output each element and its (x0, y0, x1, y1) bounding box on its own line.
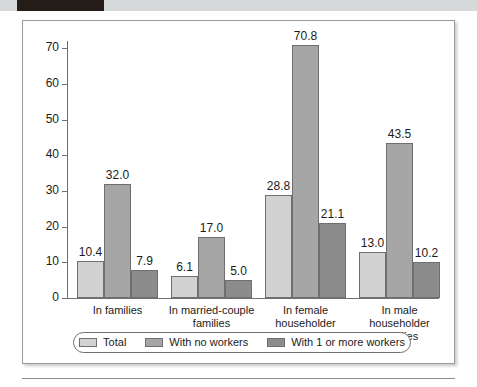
bar[interactable]: 6.1 (171, 276, 198, 298)
category-label-line: householder (340, 317, 460, 330)
bar[interactable]: 17.0 (198, 237, 225, 298)
y-tick-label: 10 (46, 254, 59, 269)
y-tick-mark (62, 84, 67, 85)
bar[interactable]: 7.9 (131, 270, 158, 298)
y-tick-label: 70 (46, 40, 59, 55)
y-tick-label: 0 (52, 290, 59, 305)
y-tick-label: 40 (46, 147, 59, 162)
legend-swatch (145, 338, 163, 347)
bar[interactable]: 10.2 (413, 262, 440, 298)
bar[interactable]: 28.8 (265, 195, 292, 298)
bar-value-label: 5.0 (230, 264, 247, 278)
bar[interactable]: 32.0 (104, 184, 131, 298)
bar-value-label: 10.4 (79, 245, 102, 259)
bar-value-label: 32.0 (106, 168, 129, 182)
legend-swatch (267, 338, 285, 347)
bar-value-label: 70.8 (294, 29, 317, 43)
y-axis-line (67, 41, 68, 298)
y-tick-mark (62, 120, 67, 121)
legend-item[interactable]: Total (79, 336, 126, 349)
bar-value-label: 28.8 (267, 179, 290, 193)
y-tick-label: 20 (46, 219, 59, 234)
chart-legend: TotalWith no workersWith 1 or more worke… (73, 332, 411, 353)
y-tick-mark (62, 191, 67, 192)
legend-item[interactable]: With 1 or more workers (267, 336, 405, 349)
footer-rule (22, 378, 455, 379)
legend-item[interactable]: With no workers (145, 336, 248, 349)
bar-value-label: 10.2 (415, 246, 438, 260)
y-tick-mark (62, 262, 67, 263)
y-tick-label: 30 (46, 183, 59, 198)
bar-value-label: 43.5 (388, 127, 411, 141)
y-tick-mark (62, 48, 67, 49)
chart-panel: 010203040506070 10.432.07.96.117.05.028.… (22, 20, 455, 364)
y-tick-mark (62, 298, 67, 299)
bar-value-label: 17.0 (200, 221, 223, 235)
bar[interactable]: 43.5 (386, 143, 413, 298)
legend-label: With 1 or more workers (291, 336, 405, 349)
bar-group: 6.117.05.0 (171, 41, 252, 298)
bar[interactable]: 10.4 (77, 261, 104, 298)
bar-value-label: 7.9 (136, 254, 153, 268)
category-label-line: In male (340, 304, 460, 317)
bar-value-label: 13.0 (361, 236, 384, 250)
page-header-strip (0, 0, 477, 11)
bar[interactable]: 70.8 (292, 45, 319, 298)
y-tick-mark (62, 155, 67, 156)
bar[interactable]: 5.0 (225, 280, 252, 298)
y-tick-label: 50 (46, 112, 59, 127)
bar-group: 10.432.07.9 (77, 41, 158, 298)
y-tick-label: 60 (46, 76, 59, 91)
plot-area: 010203040506070 10.432.07.96.117.05.028.… (67, 41, 439, 298)
bar[interactable]: 21.1 (319, 223, 346, 298)
bar-value-label: 21.1 (321, 207, 344, 221)
legend-label: Total (103, 336, 126, 349)
bar-group: 28.870.821.1 (265, 41, 346, 298)
bar[interactable]: 13.0 (359, 252, 386, 298)
y-tick-mark (62, 227, 67, 228)
bar-value-label: 6.1 (176, 260, 193, 274)
x-axis-line (67, 298, 439, 299)
legend-label: With no workers (169, 336, 248, 349)
page-header-block (17, 0, 104, 11)
bar-group: 13.043.510.2 (359, 41, 440, 298)
legend-swatch (79, 338, 97, 347)
